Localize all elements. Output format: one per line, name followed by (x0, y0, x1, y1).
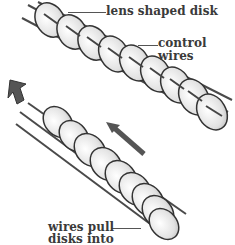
wires-pull-label-line2: disks into (48, 233, 114, 245)
control-wires-label-line2: wires (158, 50, 194, 62)
pull-direction-arrow (106, 122, 144, 154)
lens-shaped-disk-label: lens shaped disk (106, 5, 218, 17)
bend-direction-arrow (8, 80, 26, 104)
control-wires-label-line1: control (158, 37, 206, 49)
wires-pull-leader-line (111, 228, 141, 229)
lens-disk-leader-line (68, 12, 106, 13)
control-wires-leader-line (138, 45, 158, 46)
